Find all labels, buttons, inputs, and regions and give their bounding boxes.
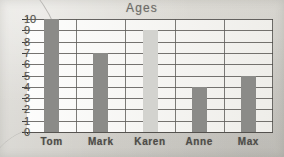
bar-tom	[44, 19, 59, 132]
bar-chart-screenshot: Ages 012345678910 TomMarkKarenAnneMax	[0, 0, 284, 157]
x-label-max: Max	[238, 136, 259, 147]
gridline-y-10	[27, 19, 273, 20]
x-label-mark: Mark	[88, 136, 114, 147]
plot-right-border	[272, 19, 273, 132]
bar-anne	[192, 87, 207, 132]
category-separator-3	[175, 19, 176, 132]
x-label-karen: Karen	[134, 136, 165, 147]
gridline-y-0	[27, 132, 273, 133]
category-separator-1	[76, 19, 77, 132]
bar-mark	[93, 53, 108, 132]
bar-max	[241, 76, 256, 133]
bar-karen	[143, 30, 158, 132]
plot-area	[27, 19, 273, 132]
x-label-anne: Anne	[185, 136, 212, 147]
category-separator-4	[224, 19, 225, 132]
chart-title: Ages	[0, 1, 284, 15]
x-label-tom: Tom	[41, 136, 63, 147]
category-separator-2	[125, 19, 126, 132]
